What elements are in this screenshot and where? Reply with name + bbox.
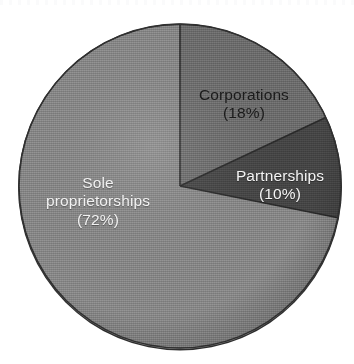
pie-label-corporations: Corporations (18%) — [174, 86, 314, 123]
pie-label-partnerships-percent: (10%) — [224, 185, 336, 203]
pie-label-corporations-name: Corporations — [174, 86, 314, 104]
pie-label-partnerships-name: Partnerships — [224, 167, 336, 185]
pie-chart: Sole proprietorships (72%) Corporations … — [0, 0, 354, 364]
pie-label-sole-line2: proprietorships — [18, 192, 178, 210]
pie-label-sole-percent: (72%) — [18, 211, 178, 229]
pie-label-corporations-percent: (18%) — [174, 104, 314, 122]
pie-label-sole-proprietorships: Sole proprietorships (72%) — [18, 174, 178, 229]
pie-label-partnerships: Partnerships (10%) — [224, 167, 336, 204]
pie-label-sole-line1: Sole — [18, 174, 178, 192]
